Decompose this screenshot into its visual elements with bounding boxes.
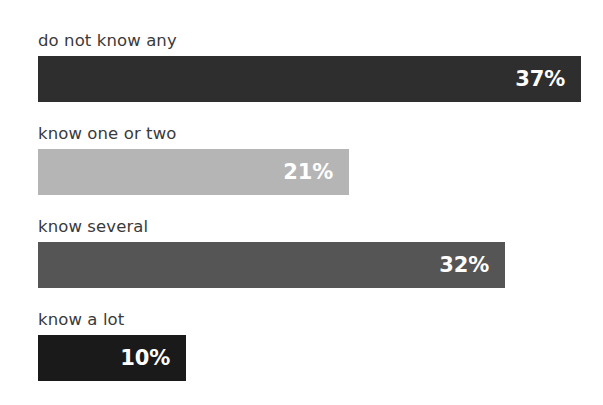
horizontal-bar-chart: do not know any 37% know one or two 21% … [0,0,603,405]
bar-rect-do-not-know-any: 37% [38,56,581,102]
bar-rect-know-a-lot: 10% [38,335,186,381]
bar-value-label: 10% [120,348,186,369]
bar-category-label: know several [38,217,148,237]
bar-rect-know-one-or-two: 21% [38,149,349,195]
bar-category-label: do not know any [38,31,177,51]
bar-category-label: know one or two [38,124,176,144]
bar-rect-know-several: 32% [38,242,505,288]
bar-value-label: 32% [439,255,505,276]
bar-value-label: 37% [515,69,581,90]
bar-category-label: know a lot [38,310,124,330]
bar-value-label: 21% [283,162,349,183]
